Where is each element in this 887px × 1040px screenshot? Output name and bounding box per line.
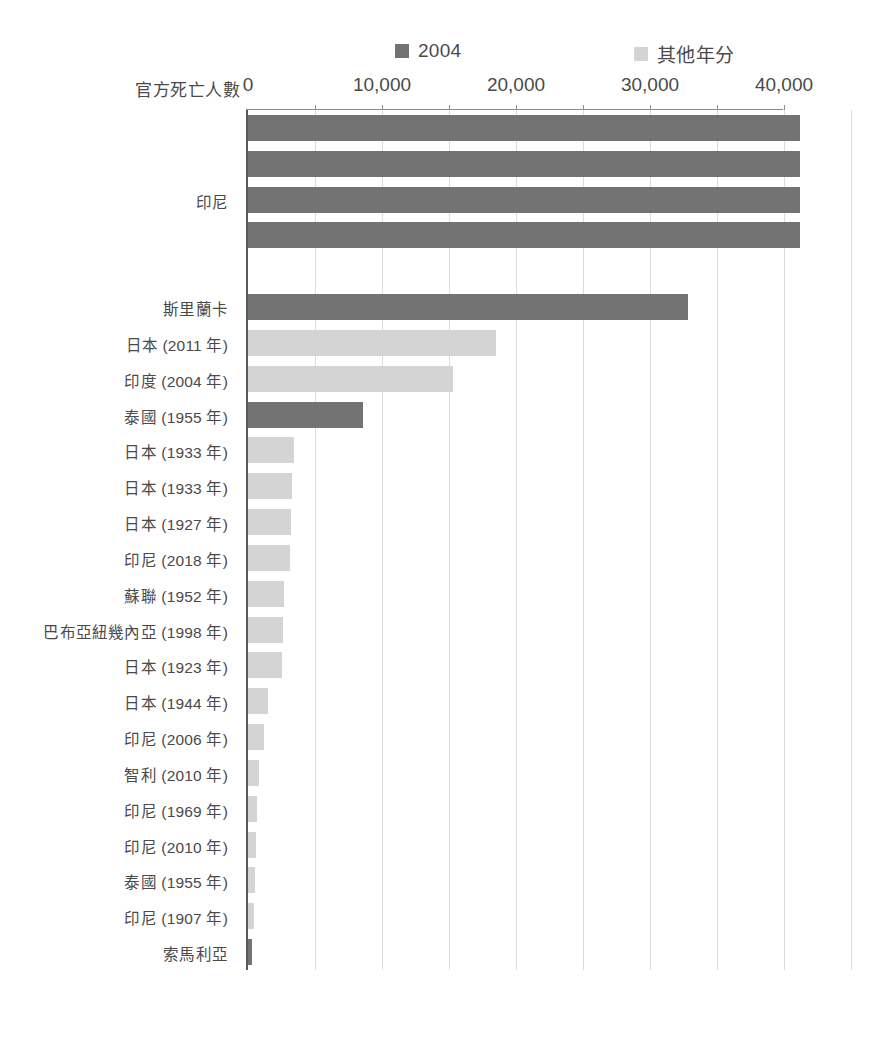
category-label: 泰國 (1955 年) [0,870,238,892]
category-label: 泰國 (1955 年) [0,405,238,427]
x-axis-tick-label: 30,000 [621,74,679,96]
x-axis-tick-label: 40,000 [755,74,813,96]
bar-row[interactable] [248,330,887,356]
bar[interactable] [248,939,252,965]
bar-row[interactable] [248,581,887,607]
bar[interactable] [248,151,800,177]
bar-row[interactable] [248,832,887,858]
y-axis-category-labels: 印尼斯里蘭卡日本 (2011 年)印度 (2004 年)泰國 (1955 年)日… [0,110,238,970]
bar[interactable] [248,617,283,643]
category-label: 日本 (1923 年) [0,655,238,677]
bar[interactable] [248,187,800,213]
bar-row[interactable] [248,509,887,535]
x-axis-tick [583,105,584,110]
legend-label-2004: 2004 [418,40,461,62]
bar-row[interactable] [248,115,887,141]
bar-row[interactable] [248,222,887,248]
bar[interactable] [248,867,255,893]
bar[interactable] [248,832,256,858]
bar-row[interactable] [248,294,887,320]
bar-row[interactable] [248,867,887,893]
legend-label-other-years: 其他年分 [657,40,734,67]
category-label: 智利 (2010 年) [0,763,238,785]
category-label: 日本 (1933 年) [0,476,238,498]
bar[interactable] [248,437,294,463]
x-axis-tick-label: 10,000 [353,74,411,96]
category-label: 印尼 (1907 年) [0,906,238,928]
category-label: 印尼 [0,190,238,212]
category-label: 日本 (2011 年) [0,333,238,355]
bar[interactable] [248,222,800,248]
bar[interactable] [248,509,291,535]
category-label: 日本 (1933 年) [0,440,238,462]
x-axis-tick [449,105,450,110]
category-label: 印尼 (2010 年) [0,835,238,857]
bar[interactable] [248,366,453,392]
bar[interactable] [248,724,264,750]
bar-row[interactable] [248,473,887,499]
bar[interactable] [248,402,363,428]
bar-row[interactable] [248,187,887,213]
bar[interactable] [248,903,254,929]
bar[interactable] [248,294,688,320]
bar[interactable] [248,688,268,714]
bar-row[interactable] [248,724,887,750]
bar-row[interactable] [248,617,887,643]
bar-row[interactable] [248,151,887,177]
category-label: 索馬利亞 [0,942,238,964]
x-axis-tick [650,105,651,110]
bar-row[interactable] [248,366,887,392]
bar[interactable] [248,581,284,607]
legend-entry-2004: 2004 [395,40,461,62]
bar[interactable] [248,545,290,571]
category-label: 印尼 (2006 年) [0,727,238,749]
bar[interactable] [248,760,259,786]
x-axis-tick [516,105,517,110]
x-axis-tick [784,105,785,110]
bar-row[interactable] [248,437,887,463]
bar[interactable] [248,330,496,356]
bar[interactable] [248,796,257,822]
category-label: 印尼 (2018 年) [0,548,238,570]
category-label: 斯里蘭卡 [0,297,238,319]
x-axis-tick [717,105,718,110]
category-label: 巴布亞紐幾內亞 (1998 年) [0,620,238,642]
x-axis-tick [315,105,316,110]
x-axis-tick-labels: 010,00020,00030,00040,000 [0,74,887,102]
legend-entry-other-years: 其他年分 [634,40,734,67]
chart-legend: 2004 其他年分 [0,40,887,66]
bar-row[interactable] [248,760,887,786]
x-axis-tick [382,105,383,110]
category-label: 印尼 (1969 年) [0,799,238,821]
bar-row[interactable] [248,652,887,678]
plot-top-rule [246,109,783,110]
plot-area [248,110,887,970]
bar[interactable] [248,115,800,141]
bar-row[interactable] [248,796,887,822]
x-axis-tick-label: 20,000 [487,74,545,96]
bar[interactable] [248,473,292,499]
bar-row[interactable] [248,402,887,428]
bar-row[interactable] [248,545,887,571]
bar[interactable] [248,652,282,678]
bar-row[interactable] [248,939,887,965]
category-label: 印度 (2004 年) [0,369,238,391]
x-axis-tick-label: 0 [243,74,254,96]
bar-row[interactable] [248,903,887,929]
legend-swatch-2004 [395,44,409,58]
bar-row[interactable] [248,688,887,714]
legend-swatch-other-years [634,47,648,61]
category-label: 日本 (1944 年) [0,691,238,713]
category-label: 蘇聯 (1952 年) [0,584,238,606]
bar-chart: 2004 其他年分 官方死亡人數 010,00020,00030,00040,0… [0,0,887,1040]
category-label: 日本 (1927 年) [0,512,238,534]
